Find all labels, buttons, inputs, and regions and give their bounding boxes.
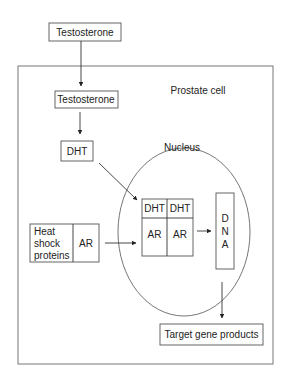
dna-letter-d: D (221, 213, 228, 224)
prostate-cell-label: Prostate cell (170, 85, 225, 96)
target-gene-products-label: Target gene products (165, 329, 259, 340)
testosterone-outside-label: Testosterone (56, 27, 114, 38)
complex-ar-left: AR (148, 229, 162, 240)
complex-dht-left: DHT (144, 203, 165, 214)
hsp-label-line2: shock (34, 238, 61, 249)
hsp-label-line3: proteins (34, 250, 70, 261)
complex-ar-right: AR (173, 229, 187, 240)
testosterone-inside-label: Testosterone (57, 94, 115, 105)
hsp-label-line1: Heat (34, 226, 55, 237)
dna-letter-n: N (221, 226, 228, 237)
nucleus-label: Nucleus (164, 142, 200, 153)
complex-dht-right: DHT (170, 203, 191, 214)
dna-letter-a: A (222, 239, 229, 250)
hsp-ar-label: AR (79, 238, 93, 249)
prostate-cell-diagram: Prostate cell Nucleus Testosterone Testo… (0, 0, 290, 380)
dht-label: DHT (67, 146, 88, 157)
